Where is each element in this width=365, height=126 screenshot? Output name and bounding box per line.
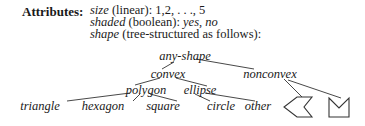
node-convex: convex: [151, 68, 186, 81]
leaf-other: other: [245, 100, 271, 113]
notched-square-shape-icon: [329, 98, 349, 117]
node-ellipse: ellipse: [184, 84, 217, 97]
node-any-shape: any-shape: [159, 50, 210, 63]
node-nonconvex: nonconvex: [243, 68, 296, 81]
leaf-circle: circle: [207, 100, 235, 113]
chevron-shape-icon: [284, 97, 312, 117]
leaf-hexagon: hexagon: [82, 100, 124, 113]
leaf-square: square: [146, 100, 180, 113]
leaf-triangle: triangle: [20, 100, 60, 113]
node-polygon: polygon: [126, 84, 166, 97]
